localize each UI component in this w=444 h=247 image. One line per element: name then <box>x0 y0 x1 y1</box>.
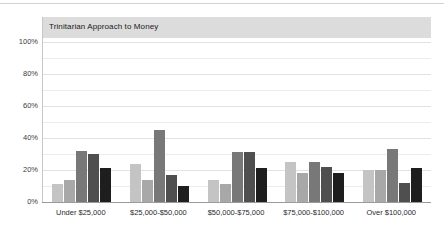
y-axis-tick-label: 20% <box>2 166 38 174</box>
bar <box>321 167 332 202</box>
bar-group <box>52 42 111 202</box>
bar-group <box>285 42 344 202</box>
x-axis-tick-label: $25,000-$50,000 <box>120 208 198 217</box>
bar <box>154 130 165 202</box>
bar-group <box>363 42 422 202</box>
bar <box>411 168 422 202</box>
bar <box>363 170 374 202</box>
y-axis-tick-label: 0% <box>2 198 38 206</box>
chart-figure: 0%20%40%60%80%100% Trinitarian Approach … <box>0 0 444 247</box>
y-axis-tick-label: 40% <box>2 134 38 142</box>
bar <box>220 184 231 202</box>
bar <box>285 162 296 202</box>
bar <box>309 162 320 202</box>
bar <box>142 180 153 202</box>
x-axis-baseline <box>42 202 431 203</box>
x-axis-labels: Under $25,000$25,000-$50,000$50,000-$75,… <box>42 205 430 225</box>
y-axis-tick-label: 60% <box>2 102 38 110</box>
bar <box>52 184 63 202</box>
bar-group <box>130 42 189 202</box>
plot-area: Trinitarian Approach to Money <box>42 17 430 202</box>
y-axis: 0%20%40%60%80%100% <box>0 17 38 202</box>
bar <box>256 168 267 202</box>
x-axis-tick-label: $50,000-$75,000 <box>197 208 275 217</box>
bar <box>166 175 177 202</box>
x-axis-tick-label: Over $100,000 <box>352 208 430 217</box>
y-axis-tick-label: 80% <box>2 70 38 78</box>
x-axis-tick-label: $75,000-$100,000 <box>275 208 353 217</box>
bar <box>232 152 243 202</box>
bar <box>387 149 398 202</box>
bar <box>88 154 99 202</box>
bar <box>64 180 75 202</box>
bar <box>297 173 308 202</box>
bar <box>178 186 189 202</box>
bar <box>375 170 386 202</box>
bar <box>399 183 410 202</box>
bar-series-container <box>43 42 431 202</box>
bar <box>333 173 344 202</box>
bar-group <box>208 42 267 202</box>
bar <box>130 164 141 202</box>
bar <box>208 180 219 202</box>
y-axis-tick-label: 100% <box>2 38 38 46</box>
figure-top-rule <box>0 3 444 4</box>
bar <box>76 151 87 202</box>
bar <box>100 168 111 202</box>
x-axis-tick-label: Under $25,000 <box>42 208 120 217</box>
bar <box>244 152 255 202</box>
page-title: Trinitarian Approach to Money <box>49 22 158 31</box>
